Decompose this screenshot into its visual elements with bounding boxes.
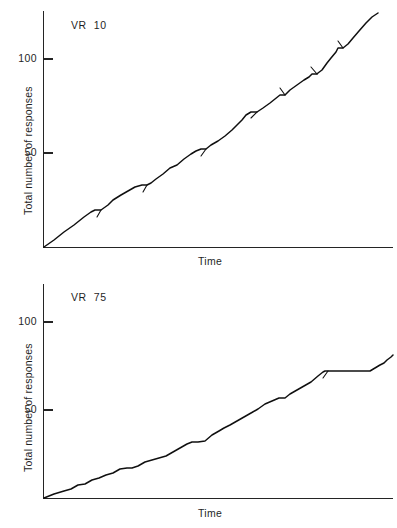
y-tick-label-100-vr10: 100 — [5, 52, 37, 64]
chart-panel-vr10: 100 50 VR 10 Total number of responses T… — [0, 0, 397, 264]
chart-panel-vr75: 100 50 VR 75 Total number of responses T… — [0, 264, 397, 528]
condition-label-vr10: VR 10 — [71, 19, 107, 31]
y-axis-title-vr10: Total number of responses — [22, 86, 34, 215]
condition-label-vr75: VR 75 — [71, 291, 107, 303]
reinforcement-hash-marks-vr10 — [97, 41, 343, 217]
chart-canvas-vr75 — [0, 264, 397, 528]
cumulative-record-curve-vr75 — [44, 355, 393, 498]
y-axis-title-vr75: Total number of responses — [22, 343, 34, 472]
y-tick-label-100-vr75: 100 — [5, 315, 37, 327]
chart-canvas-vr10 — [0, 0, 397, 264]
x-axis-title-vr75: Time — [150, 507, 270, 519]
cumulative-record-curve-vr10 — [44, 13, 378, 247]
